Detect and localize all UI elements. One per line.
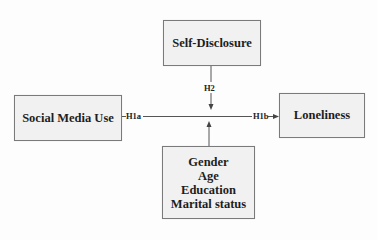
self-disclosure-label: Self-Disclosure bbox=[172, 36, 252, 51]
control-variables-box: Gender Age Education Marital status bbox=[162, 146, 255, 219]
control-age: Age bbox=[198, 169, 219, 183]
path-label-h2: H2 bbox=[204, 83, 215, 93]
control-education: Education bbox=[181, 183, 236, 197]
control-gender: Gender bbox=[188, 155, 228, 169]
loneliness-label: Loneliness bbox=[294, 108, 350, 123]
self-disclosure-box: Self-Disclosure bbox=[163, 20, 261, 66]
control-marital-status: Marital status bbox=[171, 197, 246, 211]
social-media-use-label: Social Media Use bbox=[22, 111, 114, 126]
path-label-h1b: H1b bbox=[253, 111, 269, 121]
path-label-h1a: H1a bbox=[126, 111, 141, 121]
loneliness-box: Loneliness bbox=[279, 93, 365, 138]
social-media-use-box: Social Media Use bbox=[14, 95, 122, 141]
